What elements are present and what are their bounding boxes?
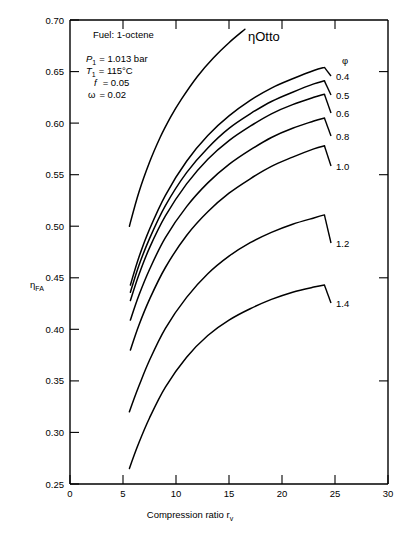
svg-text:ηFA: ηFA: [30, 279, 44, 292]
y-tick-label: 0.35: [46, 375, 65, 386]
f-annotation: f= 0.05: [94, 77, 129, 88]
x-tick-labels: 0 5 10 15 20 25 30: [67, 488, 393, 499]
x-axis-title-sub: v: [230, 515, 234, 522]
right-axis-ticks: [379, 72, 388, 381]
curve-phi-1-4: [129, 285, 324, 469]
series-label-eta-otto: ηOtto: [248, 29, 280, 44]
x-tick-label: 0: [67, 488, 72, 499]
leader-line-phi-1-2: [324, 215, 331, 243]
y-tick-label: 0.65: [46, 66, 65, 77]
y-tick-label: 0.45: [46, 272, 65, 283]
series-label-phi-0-6: 0.6: [336, 108, 349, 119]
y-axis-title: ηFA: [30, 279, 44, 292]
x-tick-label: 15: [224, 488, 235, 499]
y-tick-label: 0.40: [46, 324, 65, 335]
x-tick-label: 20: [277, 488, 288, 499]
leader-line-phi-0-6: [324, 94, 331, 113]
series-label-phi-0-8: 0.8: [336, 131, 349, 142]
series-label-phi-1-2: 1.2: [336, 238, 349, 249]
x-tick-label: 30: [383, 488, 394, 499]
series-label-phi-1-4: 1.4: [336, 298, 349, 309]
y-tick-label: 0.25: [46, 479, 65, 490]
series-label-phi-0-4: 0.4: [336, 71, 349, 82]
y-tick-label: 0.70: [46, 15, 65, 26]
x-axis-title: Compression ratio rv: [147, 509, 234, 522]
annotation-block: Fuel: 1-octene P1= 1.013 bar T1= 115°C f…: [86, 29, 154, 100]
y-axis-title-sub: FA: [35, 285, 44, 292]
curve-phi-0-4: [130, 67, 324, 285]
series-label-phi-0-5: 0.5: [336, 90, 349, 101]
series-label-phi-1-0: 1.0: [336, 161, 349, 172]
leader-line-phi-0-5: [324, 81, 331, 95]
y-tick-label: 0.50: [46, 221, 65, 232]
y-axis-ticks: [70, 20, 79, 484]
curve-phi-0-8: [130, 118, 324, 320]
chart-figure: 0.70 0.65 0.60 0.55 0.50 0.45 0.40 0.35 …: [0, 0, 411, 534]
y-tick-label: 0.60: [46, 118, 65, 129]
leader-line-phi-1-4: [324, 285, 331, 303]
series-labels: φ 0.4 0.5 0.6 0.8 1.0 1.2 1.4 ηOtto: [248, 29, 349, 309]
x-tick-label: 5: [120, 488, 125, 499]
top-axis-ticks: [123, 20, 335, 29]
x-axis-ticks: [70, 475, 388, 484]
curve-phi-0-6: [130, 94, 324, 300]
x-tick-label: 25: [330, 488, 341, 499]
chart-svg: 0.70 0.65 0.60 0.55 0.50 0.45 0.40 0.35 …: [0, 0, 411, 534]
svg-text:Compression ratio rv: Compression ratio rv: [147, 509, 234, 522]
curve-phi-0-5: [130, 81, 324, 292]
omega-annotation: ω= 0.02: [88, 89, 126, 100]
y-tick-labels: 0.70 0.65 0.60 0.55 0.50 0.45 0.40 0.35 …: [46, 15, 65, 490]
y-tick-label: 0.55: [46, 169, 65, 180]
leader-line-phi-0-4: [324, 67, 331, 76]
leader-line-phi-0-8: [324, 118, 331, 136]
y-tick-label: 0.30: [46, 427, 65, 438]
x-tick-label: 10: [171, 488, 182, 499]
fuel-annotation: Fuel: 1-octene: [93, 29, 154, 40]
legend-header-phi: φ: [342, 55, 348, 66]
leader-line-phi-1-0: [324, 146, 331, 166]
data-curves: [129, 29, 331, 468]
curve-phi-1-2: [129, 215, 324, 412]
x-axis-title-main: Compression ratio r: [147, 509, 230, 520]
